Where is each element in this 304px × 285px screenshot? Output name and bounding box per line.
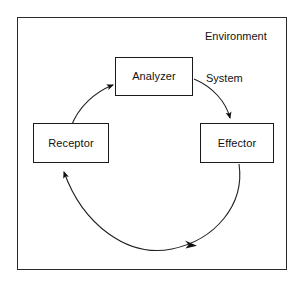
diagram-canvas: Analyzer Receptor Effector Environment S… bbox=[0, 0, 304, 285]
environment-label: Environment bbox=[205, 31, 267, 42]
node-receptor-label: Receptor bbox=[48, 138, 93, 149]
system-label: System bbox=[206, 73, 243, 84]
node-analyzer-label: Analyzer bbox=[132, 71, 176, 82]
node-receptor[interactable]: Receptor bbox=[33, 123, 109, 163]
node-analyzer[interactable]: Analyzer bbox=[115, 57, 193, 96]
node-effector[interactable]: Effector bbox=[200, 123, 274, 163]
node-effector-label: Effector bbox=[218, 138, 257, 149]
